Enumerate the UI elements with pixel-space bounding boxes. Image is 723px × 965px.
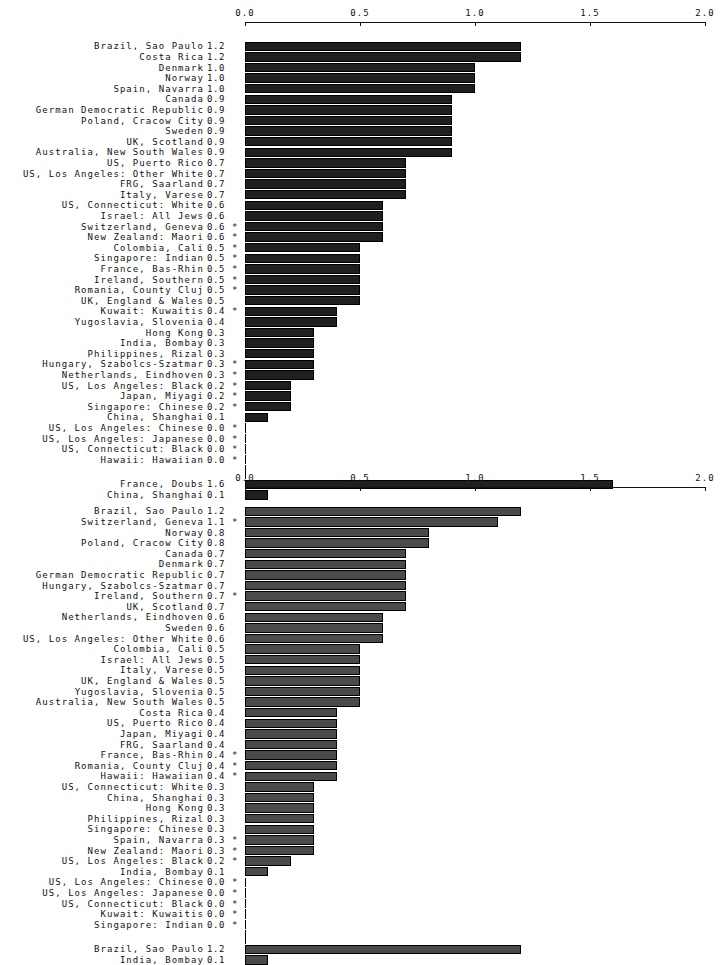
bar (245, 317, 337, 326)
bar-row-label: UK, Scotland (126, 602, 204, 612)
significance-asterisk: * (232, 243, 237, 253)
bar-row: Switzerland, Geneva1.1* (0, 517, 723, 528)
bar-row-value: 1.0 (207, 63, 229, 73)
bar-row: Romania, County Cluj0.4* (0, 760, 723, 771)
bar (245, 782, 314, 791)
bar-row-label: India, Bombay (120, 867, 204, 877)
bar-row-value: 0.3 (207, 782, 229, 792)
bar-row-label: Israel: All Jews (101, 655, 205, 665)
bar-row-value: 0.4 (207, 761, 229, 771)
bar-row: US, Los Angeles: Chinese0.0* (0, 877, 723, 888)
bar (245, 296, 360, 305)
bar-row: German Democratic Republic0.7 (0, 570, 723, 581)
bar (245, 52, 521, 61)
bar-row-value: 1.2 (207, 944, 229, 954)
axis-tick-label: 2.0 (695, 8, 715, 18)
bar-row-label: India, Bombay (120, 955, 204, 965)
bar-row-value: 0.3 (207, 846, 229, 856)
bar-row: Philippines, Rizal0.3 (0, 348, 723, 359)
bar (245, 275, 360, 284)
axis-tick-label: 0.5 (350, 473, 370, 483)
bar-row: Colombia, Cali0.5* (0, 242, 723, 253)
bar-row-value: 0.3 (207, 803, 229, 813)
bar-row-value: 0.2 (207, 856, 229, 866)
bar-row-label: Australia, New South Wales (36, 697, 204, 707)
bar-row-label: China, Shanghai (107, 793, 204, 803)
bar-row-label: US, Los Angeles: Chinese (49, 423, 204, 433)
bar (245, 116, 452, 125)
bar-row-label: Yugoslavia, Slovenia (75, 317, 204, 327)
bar-row-value: 0.7 (207, 559, 229, 569)
bar (245, 201, 383, 210)
bar (245, 666, 360, 675)
bar (245, 644, 360, 653)
bar-row-label: US, Los Angeles: Japanese (42, 888, 204, 898)
bar-row-label: Singapore: Chinese (88, 402, 204, 412)
bar-row-value: 0.1 (207, 490, 229, 500)
bar-row: Netherlands, Eindhoven0.6 (0, 612, 723, 623)
bar-row: Denmark0.7 (0, 559, 723, 570)
axis-tick (705, 487, 706, 491)
bar-row-value: 0.3 (207, 338, 229, 348)
bar (245, 856, 291, 865)
significance-asterisk: * (232, 835, 237, 845)
bar (245, 517, 498, 526)
bar-row-label: Norway (165, 73, 204, 83)
bar-row-value: 0.6 (207, 232, 229, 242)
bar (245, 528, 429, 537)
bar (245, 676, 360, 685)
bar-row: US, Puerto Rico0.4 (0, 718, 723, 729)
bar-row-value: 0.9 (207, 116, 229, 126)
bar-row: Sweden0.6 (0, 623, 723, 634)
bar-row: Italy, Varese0.7 (0, 189, 723, 200)
bar-row: Italy, Varese0.5 (0, 665, 723, 676)
bar (245, 307, 337, 316)
bar (245, 920, 246, 929)
bar (245, 84, 475, 93)
bar-row-label: Poland, Cracow City (81, 116, 204, 126)
bar-row-label: US, Puerto Rico (107, 718, 204, 728)
bar (245, 434, 246, 443)
bar-row-label: Japan, Miyagi (120, 391, 204, 401)
bar (245, 687, 360, 696)
bar (245, 490, 268, 499)
bar (245, 719, 337, 728)
bar-row: US, Puerto Rico0.7 (0, 158, 723, 169)
bar-row: UK, England & Wales0.5 (0, 295, 723, 306)
bar (245, 602, 406, 611)
bar (245, 507, 521, 516)
bar-row-value: 0.0 (207, 877, 229, 887)
bar-row-value: 0.3 (207, 793, 229, 803)
significance-asterisk: * (232, 306, 237, 316)
bar (245, 814, 314, 823)
bar-row-label: German Democratic Republic (36, 105, 204, 115)
bar-row-value: 0.7 (207, 591, 229, 601)
bar-row: US, Los Angeles: Chinese0.0* (0, 423, 723, 434)
bar-row-value: 0.5 (207, 253, 229, 263)
bar-row-value: 0.3 (207, 370, 229, 380)
bar-row-value: 1.2 (207, 52, 229, 62)
bar-row: US, Los Angeles: Japanese0.0* (0, 433, 723, 444)
bar-row: Costa Rica0.4 (0, 707, 723, 718)
bar (245, 825, 314, 834)
bar-row: Canada0.9 (0, 94, 723, 105)
bar (245, 360, 314, 369)
bar-row: Ireland, Southern0.5* (0, 274, 723, 285)
bar-row: FRG, Saarland0.7 (0, 179, 723, 190)
bar-row-label: Philippines, Rizal (88, 814, 204, 824)
bar-row-value: 0.0 (207, 899, 229, 909)
bar-row-value: 0.9 (207, 94, 229, 104)
bar-row: Kuwait: Kuwaitis0.0* (0, 909, 723, 920)
bar (245, 285, 360, 294)
bar-row-label: UK, Scotland (126, 137, 204, 147)
bar (245, 413, 268, 422)
bar-row-label: US, Los Angeles: Black (62, 856, 204, 866)
bar (245, 179, 406, 188)
bar-row-label: Philippines, Rizal (88, 349, 204, 359)
bar-row-value: 0.6 (207, 222, 229, 232)
x-axis-top: 0.00.51.01.52.0 (245, 0, 705, 24)
bar (245, 126, 452, 135)
bar-row-value: 0.5 (207, 644, 229, 654)
bar-row: US, Los Angeles: Black0.2* (0, 380, 723, 391)
bar-row-label: Netherlands, Eindhoven (62, 612, 204, 622)
